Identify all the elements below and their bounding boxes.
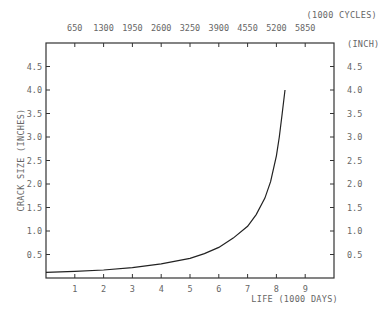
- y2-tick-label: 3.5: [347, 109, 362, 119]
- x-tick-label: 6: [216, 284, 221, 294]
- y-tick-label: 4.5: [27, 62, 42, 72]
- y-tick-label: 1.0: [27, 226, 42, 236]
- x-tick-label: 9: [303, 284, 308, 294]
- crack-growth-curve: [46, 90, 285, 272]
- y-tick-label: 0.5: [27, 250, 42, 260]
- y-axis-title: CRACK SIZE (INCHES): [16, 109, 26, 212]
- x-tick-label: 1: [72, 284, 77, 294]
- y2-tick-label: 4.5: [347, 62, 362, 72]
- crack-growth-chart: 1650213003195042600532506390074550852009…: [0, 0, 383, 312]
- x2-tick-label: 650: [67, 23, 82, 33]
- x2-tick-label: 3900: [209, 23, 229, 33]
- x2-tick-label: 1300: [93, 23, 113, 33]
- x-tick-label: 2: [101, 284, 106, 294]
- y-tick-label: 3.0: [27, 132, 42, 142]
- x2-tick-label: 5850: [295, 23, 315, 33]
- x-tick-label: 3: [130, 284, 135, 294]
- y2-tick-label: 3.0: [347, 132, 362, 142]
- x2-tick-label: 2600: [151, 23, 171, 33]
- y2-tick-label: 2.5: [347, 156, 362, 166]
- y-tick-label: 2.0: [27, 179, 42, 189]
- x-tick-label: 7: [245, 284, 250, 294]
- plot-frame: [46, 43, 334, 278]
- y-tick-label: 1.5: [27, 203, 42, 213]
- x-axis-title: LIFE (1000 DAYS): [251, 294, 338, 304]
- y2-tick-label: 2.0: [347, 179, 362, 189]
- x2-tick-label: 4550: [237, 23, 257, 33]
- y-tick-label: 3.5: [27, 109, 42, 119]
- top-axis-title: (1000 CYCLES): [307, 10, 377, 20]
- x2-tick-label: 5200: [266, 23, 286, 33]
- plot-border: [46, 43, 334, 278]
- x2-tick-label: 1950: [122, 23, 142, 33]
- y-tick-label: 2.5: [27, 156, 42, 166]
- x-tick-label: 5: [187, 284, 192, 294]
- x-tick-label: 8: [274, 284, 279, 294]
- tick-labels: 1650213003195042600532506390074550852009…: [27, 23, 363, 294]
- x2-tick-label: 3250: [180, 23, 200, 33]
- x-tick-label: 4: [159, 284, 164, 294]
- y-tick-label: 4.0: [27, 85, 42, 95]
- right-axis-title: (INCH): [347, 39, 380, 49]
- y2-tick-label: 0.5: [347, 250, 362, 260]
- y2-tick-label: 1.0: [347, 226, 362, 236]
- y2-tick-label: 1.5: [347, 203, 362, 213]
- axis-ticks: [46, 43, 334, 278]
- y2-tick-label: 4.0: [347, 85, 362, 95]
